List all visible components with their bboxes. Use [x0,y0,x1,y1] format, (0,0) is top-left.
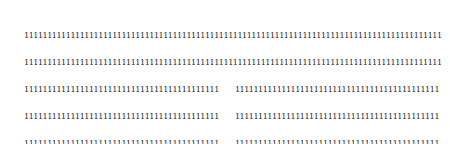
row-text-left: 1111111111111111111111111111111111111111… [24,112,219,121]
row-text-left: 1111111111111111111111111111111111111111… [24,85,219,94]
row-text-right: 1111111111111111111111111111111111111111… [235,85,439,94]
row-text: 1111111111111111111111111111111111111111… [24,31,442,40]
row-text: 1111111111111111111111111111111111111111… [24,58,442,67]
digit-grid: 1111111111111111111111111111111111111111… [24,13,442,144]
row-text-left: 1111111111111111111111111111111111111111… [24,139,219,144]
row-text-right: 1111111111111111111111111111111111111111… [235,139,439,144]
grid-row-4: 1111111111111111111111111111111111111111… [24,112,442,121]
grid-row-5: 1111111111111111111111111111111111111111… [24,139,442,144]
grid-row-1: 1111111111111111111111111111111111111111… [24,31,442,40]
row-text-right: 1111111111111111111111111111111111111111… [235,112,439,121]
grid-row-2: 1111111111111111111111111111111111111111… [24,58,442,67]
grid-row-3: 1111111111111111111111111111111111111111… [24,85,442,94]
